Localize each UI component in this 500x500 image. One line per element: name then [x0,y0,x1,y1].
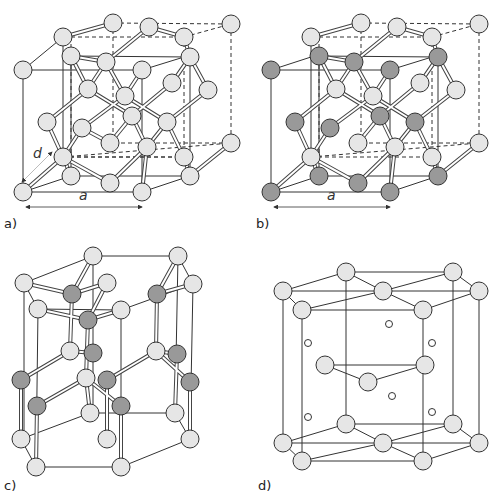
crystal-structures-figure [0,0,500,500]
panel-d-hcp [274,263,488,470]
dimension-a-label: a [79,187,88,203]
panel-a-diamond-cubic [14,14,240,207]
panel-c-wurtzite [12,247,202,476]
panel-b-zinc-blende [262,14,488,207]
dimension-a-label-b: a [327,187,336,203]
panel-a-label: a) [4,216,17,231]
panel-c-label: c) [4,478,16,493]
dimension-d-label: d [33,145,42,161]
panel-b-label: b) [256,216,269,231]
panel-d-label: d) [258,478,271,493]
